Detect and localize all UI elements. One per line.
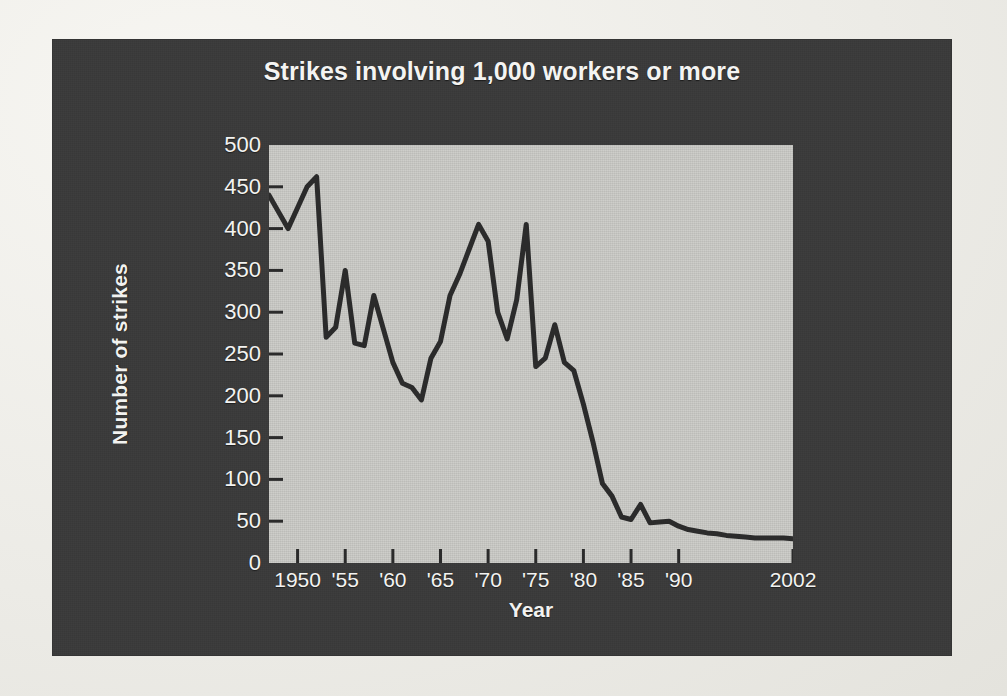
x-tick-label: '70 [474,569,501,590]
x-tick-label: '90 [665,569,692,590]
x-axis-tick-labels: 1950'55'60'65'70'75'80'85'902002 [53,569,951,597]
strikes-data-line [269,177,793,539]
x-tick-label: 2002 [770,569,817,590]
line-chart-svg [269,145,793,563]
y-axis-title: Number of strikes [108,224,132,484]
page-background: Strikes involving 1,000 workers or more … [0,0,1007,696]
y-tick-label: 250 [191,343,261,365]
x-tick-label: '85 [617,569,644,590]
y-tick-label: 150 [191,427,261,449]
x-tick-label: '80 [570,569,597,590]
y-tick-label: 450 [191,176,261,198]
y-tick-label: 200 [191,385,261,407]
y-tick-label: 500 [191,134,261,156]
y-axis-tick-labels: 500450400350300250200150100500 [183,40,261,655]
y-tick-label: 300 [191,301,261,323]
y-tick-label: 350 [191,259,261,281]
x-tick-label: 1950 [274,569,321,590]
axis-tick-marks [269,187,793,563]
x-tick-label: '65 [427,569,454,590]
y-tick-label: 400 [191,218,261,240]
x-tick-label: '55 [332,569,359,590]
x-axis-title: Year [269,598,793,622]
chart-panel: Strikes involving 1,000 workers or more … [53,40,951,655]
plot-area [269,145,793,563]
y-tick-label: 100 [191,468,261,490]
x-tick-label: '60 [379,569,406,590]
y-tick-label: 50 [191,510,261,532]
x-tick-label: '75 [522,569,549,590]
